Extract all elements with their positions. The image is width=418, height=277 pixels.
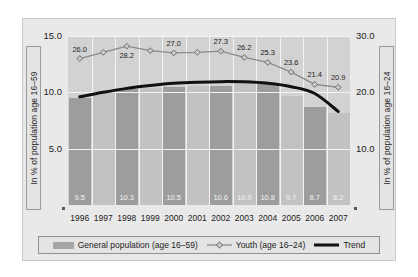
youth-label-1998: 28.2: [119, 51, 134, 60]
youth-marker-2002: [218, 48, 224, 54]
legend-label-trend: Trend: [343, 240, 365, 250]
youth-label-2005: 23.6: [284, 58, 299, 67]
axis-nub-left: [62, 207, 65, 210]
youth-marker-1999: [147, 48, 153, 54]
legend-label-youth: Youth (age 16–24): [236, 240, 306, 250]
youth-label-1996: 26.0: [72, 45, 87, 54]
x-tick-2002: 2002: [211, 213, 230, 223]
y-tick-right-10.0: 10.0: [356, 143, 386, 154]
y-tick-right-30.0: 30.0: [356, 30, 386, 41]
youth-marker-2000: [171, 50, 177, 56]
x-tick-2003: 2003: [235, 213, 254, 223]
youth-marker-2006: [312, 82, 318, 88]
bar-swatch-icon: [53, 242, 74, 249]
legend-label-general-population: General population (age 16–59): [78, 240, 198, 250]
x-axis-labels: 1996199719981999200020012002200320042005…: [68, 213, 350, 227]
axis-nub-right: [354, 207, 357, 210]
y-tick-left-15.0: 15.0: [34, 30, 62, 41]
youth-label-2000: 27.0: [166, 39, 181, 48]
youth-marker-2007: [335, 84, 341, 90]
x-tick-1998: 1998: [117, 213, 136, 223]
y-tick-left-10.0: 10.0: [34, 86, 62, 97]
x-tick-1997: 1997: [94, 213, 113, 223]
youth-marker-1998: [124, 43, 130, 49]
chart-figure: In % of population age 16–59 In % of pop…: [0, 0, 418, 277]
line-diamond-swatch-icon: [207, 240, 232, 250]
y-tick-right-20.0: 20.0: [356, 86, 386, 97]
youth-label-2006: 21.4: [307, 70, 322, 79]
x-tick-2001: 2001: [188, 213, 207, 223]
x-tick-2006: 2006: [305, 213, 324, 223]
youth-label-2002: 27.3: [213, 37, 228, 46]
y-axis-right-title: In % of population age 16–24: [379, 46, 394, 210]
y-axis-left-title: In % of population age 16–59: [26, 46, 41, 210]
youth-label-2003: 26.2: [237, 43, 252, 52]
youth-marker-2003: [241, 55, 247, 61]
legend-item-youth: Youth (age 16–24): [207, 240, 306, 250]
youth-marker-2005: [288, 69, 294, 75]
x-tick-1999: 1999: [141, 213, 160, 223]
x-tick-2005: 2005: [282, 213, 301, 223]
line-series-overlay: [68, 36, 350, 205]
line-thick-swatch-icon: [314, 240, 339, 250]
youth-marker-1996: [77, 56, 83, 62]
youth-marker-2004: [265, 60, 271, 66]
x-tick-1996: 1996: [70, 213, 89, 223]
youth-label-2007: 20.9: [331, 73, 346, 82]
x-tick-2004: 2004: [258, 213, 277, 223]
x-tick-2000: 2000: [164, 213, 183, 223]
y-tick-left-5.0: 5.0: [34, 143, 62, 154]
legend-item-general-population: General population (age 16–59): [53, 240, 198, 250]
chart-legend: General population (age 16–59) Youth (ag…: [38, 236, 380, 254]
legend-item-trend: Trend: [314, 240, 365, 250]
youth-marker-2001: [194, 49, 200, 55]
plot-area: 9.510.310.510.610.910.89.78.78.2 26.028.…: [68, 36, 350, 205]
x-tick-2007: 2007: [329, 213, 348, 223]
youth-marker-1997: [100, 49, 106, 55]
youth-label-2004: 25.3: [260, 48, 275, 57]
trend-line-path: [80, 82, 339, 112]
